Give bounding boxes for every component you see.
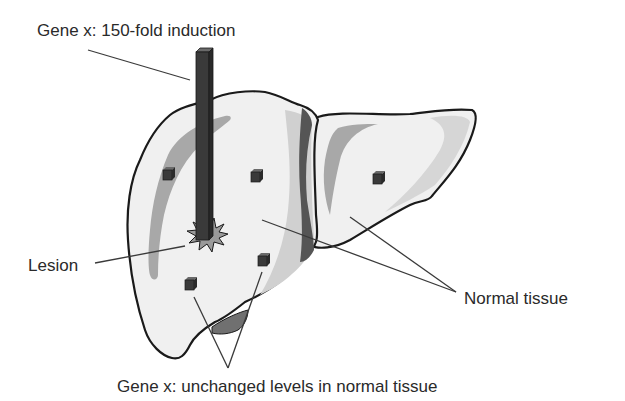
small-bar-3 [373, 171, 385, 184]
lesion-label: Lesion [28, 257, 78, 274]
induction-label: Gene x: 150-fold induction [37, 22, 235, 39]
small-bar-1 [163, 167, 175, 180]
small-bar-4 [185, 277, 197, 290]
normal-tissue-label: Normal tissue [464, 290, 568, 307]
small-bar-2 [251, 169, 263, 182]
small-bar-5 [258, 253, 270, 266]
unchanged-levels-label: Gene x: unchanged levels in normal tissu… [117, 378, 437, 395]
callout-induction-line [88, 50, 190, 80]
callout-normal-line-b [350, 217, 456, 292]
liver-diagram [0, 0, 625, 401]
induction-bar [196, 48, 213, 240]
